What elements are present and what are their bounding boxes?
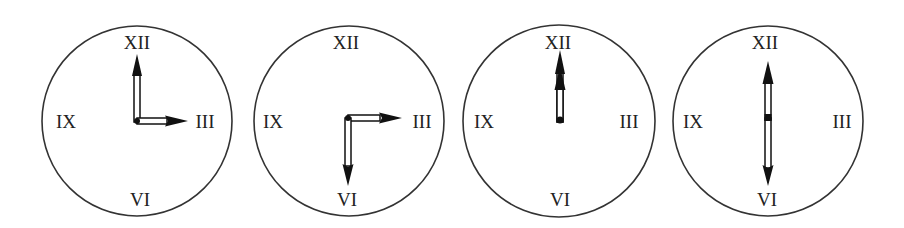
- numeral-vi: VI: [757, 189, 777, 210]
- numeral-vi: VI: [130, 189, 150, 210]
- clock-3: XII III VI IX: [463, 25, 655, 217]
- clock-diagram: XII III VI IX XII III VI IX XII: [0, 0, 904, 228]
- numeral-xii: XII: [124, 32, 150, 53]
- numeral-ix: IX: [474, 111, 494, 132]
- numeral-vi: VI: [550, 189, 570, 210]
- clock-1: XII III VI IX: [42, 26, 232, 216]
- numeral-iii: III: [413, 111, 432, 132]
- clock-hub: [557, 117, 564, 124]
- clock-hub: [345, 115, 351, 121]
- clock-hub: [134, 118, 140, 124]
- numeral-ix: IX: [683, 111, 703, 132]
- clock-2: XII III VI IX: [254, 26, 444, 216]
- clock-4: XII III VI IX: [673, 26, 863, 216]
- numeral-vi: VI: [337, 189, 357, 210]
- numeral-xii: XII: [545, 32, 571, 53]
- numeral-iii: III: [833, 111, 852, 132]
- numeral-xii: XII: [333, 32, 359, 53]
- numeral-ix: IX: [56, 111, 76, 132]
- numeral-ix: IX: [263, 111, 283, 132]
- numeral-iii: III: [196, 111, 215, 132]
- numeral-iii: III: [620, 111, 639, 132]
- numeral-xii: XII: [752, 32, 778, 53]
- clock-hub: [765, 114, 772, 121]
